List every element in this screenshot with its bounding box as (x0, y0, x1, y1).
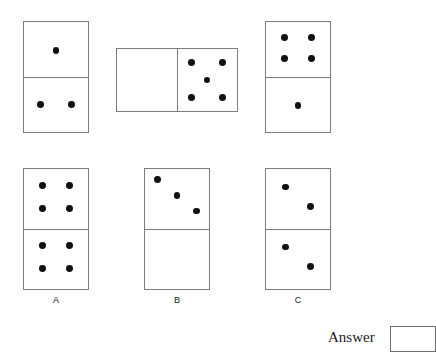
answer-area: Answer (328, 326, 408, 352)
pip (307, 203, 314, 210)
pip (193, 208, 200, 215)
sequence-tile-3 (265, 21, 331, 133)
pip (154, 176, 161, 183)
pip (66, 242, 73, 249)
answer-input-box[interactable] (390, 326, 436, 352)
pip (37, 101, 44, 108)
pip (282, 244, 289, 251)
sequence-tile-3-half-top (266, 22, 330, 77)
pip (188, 94, 195, 101)
pip (39, 265, 46, 272)
pip (39, 205, 46, 212)
option-tile-a-half-top (24, 169, 88, 229)
pip (282, 184, 289, 191)
pip (66, 265, 73, 272)
pip (281, 55, 288, 62)
sequence-tile-3-half-bottom (266, 77, 330, 132)
sequence-tile-2-half-left (117, 49, 177, 111)
pip (308, 34, 315, 41)
pip (53, 47, 60, 54)
sequence-tile-1-half-bottom (24, 77, 88, 132)
option-tile-c-half-bottom (266, 229, 330, 289)
option-tile-b-half-top (145, 169, 209, 229)
sequence-tile-1-half-top (24, 22, 88, 77)
option-label-b: B (144, 295, 210, 305)
pip (308, 55, 315, 62)
pip (39, 242, 46, 249)
sequence-tile-1 (23, 21, 89, 133)
option-label-a: A (23, 295, 89, 305)
option-tile-b-half-bottom (145, 229, 209, 289)
sequence-tile-2-half-right (177, 49, 237, 111)
pip (204, 77, 211, 84)
option-tile-b[interactable] (144, 168, 210, 290)
pip (219, 94, 226, 101)
pip (174, 192, 181, 199)
pip (66, 182, 73, 189)
pip (295, 102, 302, 109)
option-tile-a[interactable] (23, 168, 89, 290)
option-label-c: C (265, 295, 331, 305)
pip (188, 59, 195, 66)
pip (68, 101, 75, 108)
pip (281, 34, 288, 41)
pip (66, 205, 73, 212)
pip (39, 182, 46, 189)
option-tile-a-half-bottom (24, 229, 88, 289)
option-tile-c-half-top (266, 169, 330, 229)
pip (307, 263, 314, 270)
option-tile-c[interactable] (265, 168, 331, 290)
sequence-tile-2 (116, 48, 238, 112)
answer-label: Answer (328, 329, 375, 346)
pip (219, 59, 226, 66)
